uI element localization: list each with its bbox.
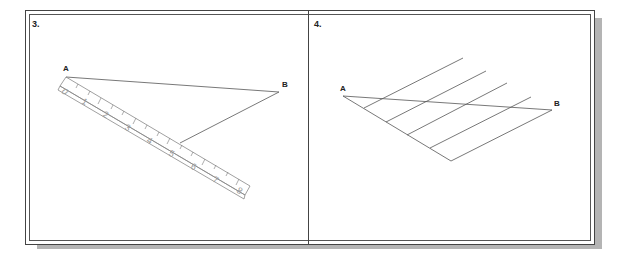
panel-3-drawing <box>58 77 279 199</box>
ruler-ticks <box>76 84 239 185</box>
ruler-numbers: 0 1 2 3 4 5 6 7 8 <box>59 87 244 196</box>
svg-text:0: 0 <box>59 87 70 96</box>
point-a-label: A <box>63 64 69 73</box>
parallel-line-2 <box>386 71 486 122</box>
line-b-to-ruler <box>180 92 279 143</box>
parallel-line-4 <box>430 97 531 148</box>
line-ab <box>66 77 279 92</box>
diagram-canvas: A B 0 1 2 3 4 5 6 7 8 A B <box>0 0 619 269</box>
point-a-label-4: A <box>340 84 346 93</box>
construction-line <box>343 96 451 161</box>
point-b-label-4: B <box>554 99 560 108</box>
svg-text:1: 1 <box>80 96 89 107</box>
panel-4-drawing <box>343 58 552 161</box>
parallel-line-3 <box>407 83 507 135</box>
point-b-label: B <box>282 80 288 89</box>
closing-line <box>451 110 552 161</box>
